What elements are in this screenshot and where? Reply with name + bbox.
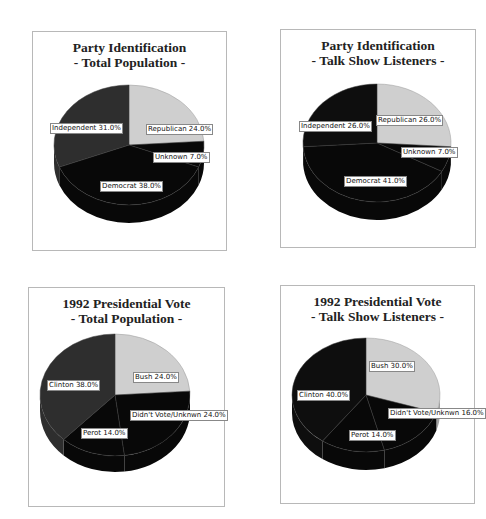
slice-label-didnt-vote: Didn't Vote/Unknwn 16.0% [388, 408, 486, 419]
slice-label-bush: Bush 30.0% [369, 361, 415, 372]
slice-label-clinton: Clinton 40.0% [297, 390, 350, 401]
slice-label-perot: Perot 14.0% [349, 430, 396, 441]
